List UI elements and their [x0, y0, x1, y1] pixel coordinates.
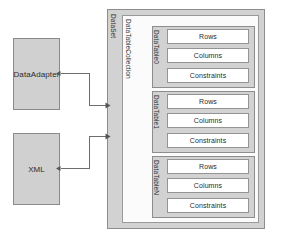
- data-adapter-box[interactable]: DataAdapter: [13, 38, 60, 110]
- datatable-n-columns-field[interactable]: Columns: [167, 178, 249, 193]
- datatable-0-constraints-label: Constraints: [190, 72, 227, 79]
- connector-xml-to-dataset: [56, 134, 111, 172]
- dataset-label: DataSet: [110, 14, 117, 38]
- datatable-1-constraints-label: Constraints: [190, 137, 227, 144]
- datatable-n-columns-label: Columns: [194, 182, 222, 189]
- datatable-1-label: DataTable1: [153, 95, 160, 129]
- datatable-n-constraints-field[interactable]: Constraints: [167, 198, 249, 213]
- datatable-0-constraints-field[interactable]: Constraints: [167, 68, 249, 83]
- datatable-n-rows-field[interactable]: Rows: [167, 159, 249, 174]
- datatable-0-label: DataTable0: [153, 30, 160, 64]
- datatable-1-columns-label: Columns: [194, 117, 222, 124]
- datatable-n-constraints-label: Constraints: [190, 202, 227, 209]
- xml-label: XML: [28, 165, 45, 174]
- dataset-architecture-diagram: DataAdapter XML DataSet DataTableCollect…: [0, 0, 292, 241]
- datatable-1-constraints-field[interactable]: Constraints: [167, 133, 249, 148]
- datatable-n-label: DataTableN: [153, 160, 160, 195]
- datatable-n-rows-label: Rows: [199, 163, 217, 170]
- datatable-collection-label: DataTableCollection: [125, 19, 132, 79]
- datatable-1-rows-label: Rows: [199, 98, 217, 105]
- datatable-1-rows-field[interactable]: Rows: [167, 94, 249, 109]
- datatable-0-rows-label: Rows: [199, 33, 217, 40]
- datatable-1-columns-field[interactable]: Columns: [167, 113, 249, 128]
- datatable-0-rows-field[interactable]: Rows: [167, 29, 249, 44]
- datatable-0-columns-field[interactable]: Columns: [167, 48, 249, 63]
- xml-box[interactable]: XML: [13, 133, 60, 205]
- datatable-0-columns-label: Columns: [194, 52, 222, 59]
- data-adapter-label: DataAdapter: [13, 70, 59, 79]
- connector-data-adapter-to-dataset: [56, 71, 111, 109]
